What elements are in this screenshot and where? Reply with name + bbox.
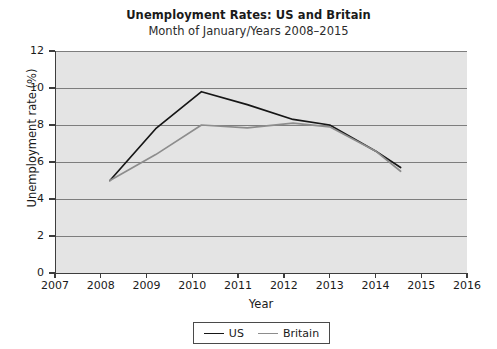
chart-subtitle: Month of January/Years 2008–2015	[0, 24, 497, 38]
x-tick-label: 2016	[444, 279, 490, 292]
legend-swatch-us-icon	[204, 333, 224, 334]
x-axis-title: Year	[55, 297, 467, 311]
plot-svg	[55, 51, 467, 273]
legend-swatch-britain-icon	[258, 333, 278, 334]
x-tick-label: 2012	[261, 279, 307, 292]
y-tick-mark	[49, 235, 55, 236]
x-tick-mark	[466, 273, 467, 278]
legend-label-britain: Britain	[283, 327, 319, 340]
x-tick-label: 2011	[215, 279, 261, 292]
legend-label-us: US	[229, 327, 244, 340]
x-tick-mark	[421, 273, 422, 278]
chart-container: Unemployment Rates: US and Britain Month…	[0, 0, 497, 349]
series-lines	[110, 92, 401, 181]
x-tick-label: 2008	[78, 279, 124, 292]
y-tick-label: 2	[14, 229, 44, 242]
x-tick-label: 2014	[352, 279, 398, 292]
x-tick-mark	[192, 273, 193, 278]
x-tick-mark	[283, 273, 284, 278]
y-tick-mark	[49, 87, 55, 88]
x-tick-label: 2009	[124, 279, 170, 292]
x-tick-label: 2010	[169, 279, 215, 292]
plot-area	[55, 51, 467, 273]
legend-item-us: US	[204, 327, 244, 340]
y-tick-label: 0	[14, 266, 44, 279]
x-tick-label: 2007	[32, 279, 78, 292]
x-tick-label: 2015	[398, 279, 444, 292]
gridlines	[55, 52, 467, 274]
y-axis-line	[55, 51, 56, 274]
x-tick-mark	[100, 273, 101, 278]
series-line-us	[110, 92, 401, 181]
chart-title: Unemployment Rates: US and Britain	[0, 8, 497, 22]
y-tick-mark	[49, 50, 55, 51]
y-tick-mark	[49, 124, 55, 125]
legend-item-britain: Britain	[258, 327, 319, 340]
x-tick-mark	[54, 273, 55, 278]
chart-legend: US Britain	[193, 322, 330, 344]
x-tick-mark	[146, 273, 147, 278]
x-tick-label: 2013	[307, 279, 353, 292]
x-tick-mark	[237, 273, 238, 278]
x-tick-mark	[329, 273, 330, 278]
x-tick-mark	[375, 273, 376, 278]
y-tick-mark	[49, 198, 55, 199]
y-tick-mark	[49, 161, 55, 162]
x-axis-line	[55, 273, 468, 274]
y-axis-title: Unemployment rate (%)	[25, 53, 39, 223]
